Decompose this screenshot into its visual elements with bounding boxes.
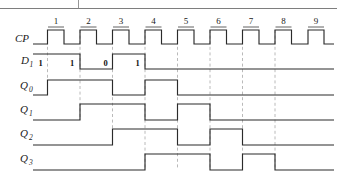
signal-label-q1-sub: 1 [29, 109, 33, 118]
top-rule [0, 0, 337, 9]
signal-label-q0: Q 0 [20, 79, 33, 94]
signal-label-q0-sub: 0 [29, 85, 33, 94]
pulse-number: 8 [281, 16, 286, 26]
signal-label-d1-text: D [20, 54, 29, 66]
signal-label-q3: Q 3 [20, 152, 33, 167]
pulse-number: 9 [314, 16, 319, 26]
signal-label-cp-text: CP [15, 32, 29, 44]
pulse-number: 5 [184, 16, 189, 26]
data-bit-value: 0 [103, 58, 107, 68]
signal-label-q2: Q 2 [20, 127, 33, 142]
signal-label-d1: D 1 [20, 54, 33, 69]
pulse-number: 7 [249, 16, 254, 26]
waveform-cp [33, 30, 334, 44]
signal-label-cp: CP [15, 32, 29, 44]
data-bit-value: 1 [135, 58, 139, 68]
signal-label-q3-sub: 3 [28, 158, 33, 167]
pulse-number: 2 [86, 16, 91, 26]
waveform-d1 [33, 54, 334, 69]
pulse-number: 4 [151, 16, 156, 26]
signal-labels: CP D 1 Q 0 Q 1 Q 2 Q 3 [15, 32, 33, 167]
data-bit-labels: 1 1 0 1 [38, 58, 139, 68]
waveform-q1 [33, 104, 334, 120]
signal-label-q1-text: Q [20, 103, 28, 115]
waveform-q3 [33, 154, 334, 170]
pulse-number: 6 [216, 16, 221, 26]
clock-pulse-numbers: 1 2 3 4 5 6 7 8 9 [48, 16, 324, 27]
waveform-q2 [33, 129, 334, 145]
alignment-gridlines [48, 30, 276, 170]
signal-label-d1-sub: 1 [30, 60, 34, 69]
signal-label-q2-text: Q [20, 127, 28, 139]
signal-label-q1: Q 1 [20, 103, 33, 118]
signal-label-q3-text: Q [20, 152, 28, 164]
waveform-q0 [33, 80, 334, 95]
timing-diagram-figure: CP D 1 Q 0 Q 1 Q 2 Q 3 [0, 0, 337, 179]
data-bit-value: 1 [38, 58, 42, 68]
signal-label-q2-sub: 2 [29, 133, 33, 142]
data-bit-value: 1 [70, 58, 74, 68]
pulse-number: 3 [119, 16, 124, 26]
pulse-number: 1 [54, 16, 59, 26]
signal-label-q0-text: Q [20, 79, 28, 91]
